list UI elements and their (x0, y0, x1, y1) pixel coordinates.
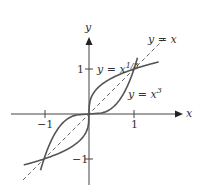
y-axis-label: y (84, 21, 92, 34)
x-axis-label: x (186, 107, 193, 120)
label-cube: y = x3 (127, 86, 162, 101)
x-tick-label-1: 1 (131, 118, 138, 131)
label-identity: y = x (147, 33, 177, 46)
y-tick-label-1: 1 (77, 63, 84, 76)
label-cube-base: y = x (127, 88, 157, 101)
x-tick-label-neg1: −1 (37, 118, 53, 131)
label-cube-exponent: 3 (157, 86, 162, 95)
y-tick-label-neg1: −1 (72, 153, 88, 166)
function-graph: y x −1 1 1 −1 y = x y = x1/3 y = x3 (0, 0, 199, 196)
y-axis-arrow-icon (86, 37, 93, 45)
x-axis-arrow-icon (175, 111, 183, 118)
label-cube-root-exponent: 1/3 (126, 61, 139, 70)
label-cube-root-base: y = x (96, 63, 126, 76)
